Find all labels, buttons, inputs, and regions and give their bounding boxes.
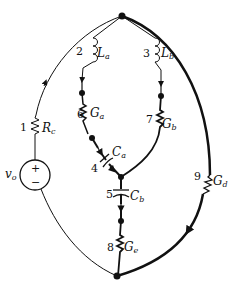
branch-7-gb: 7 Gb [121, 96, 177, 177]
label-ga: Ga [90, 106, 105, 121]
label-gd: Gd [213, 174, 228, 189]
branch-2-la: 2 La [76, 16, 122, 96]
branch-6-ga: 6 Ga [77, 93, 105, 141]
branch-number-6: 6 [77, 108, 84, 121]
branch-number-7: 7 [146, 113, 153, 126]
branch-number-4: 4 [91, 162, 98, 175]
circuit-diagram: 1 Rc + − vo 2 La 6 Ga 4 Ca [0, 0, 237, 290]
plus-sign: + [31, 162, 40, 175]
label-la: La [96, 46, 110, 61]
top-node [119, 13, 126, 20]
resistor-rc-icon [31, 115, 39, 160]
branch-number-3: 3 [143, 47, 150, 60]
branch-5-cb: 5 Cb [106, 177, 144, 224]
branch-8-ge: 8 Ge [107, 221, 139, 276]
label-ca: Ca [112, 145, 126, 160]
label-ge: Ge [124, 240, 139, 255]
branch-number-5: 5 [106, 188, 113, 201]
resistor-gd-icon [203, 175, 212, 194]
minus-sign: − [31, 176, 40, 189]
voltage-source-vo: + − vo [5, 160, 117, 276]
resistor-gb-icon [121, 96, 163, 177]
branch-number-1: 1 [20, 121, 27, 134]
branch-number-9: 9 [194, 170, 201, 183]
label-cb: Cb [130, 189, 144, 204]
label-vo: vo [5, 167, 17, 182]
label-gb: Gb [162, 117, 177, 132]
label-rc: Rc [41, 121, 56, 136]
inductor-la-icon [83, 38, 98, 68]
branch-number-8: 8 [107, 241, 114, 254]
branch-number-2: 2 [76, 45, 83, 58]
branch-4-ca: 4 Ca [91, 138, 126, 177]
resistor-ge-icon [117, 221, 123, 276]
bottom-node [114, 273, 121, 280]
branch-1-rc: 1 Rc [20, 16, 122, 160]
